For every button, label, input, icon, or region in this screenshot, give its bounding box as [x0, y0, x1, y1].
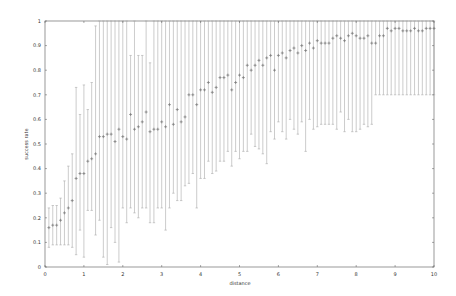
data-point	[102, 135, 105, 138]
data-point	[160, 120, 163, 123]
data-point	[110, 133, 113, 136]
x-tick-label: 10	[431, 271, 437, 277]
data-point	[265, 56, 268, 59]
data-point	[397, 27, 400, 30]
data-point	[339, 37, 342, 40]
x-tick-label: 3	[160, 271, 163, 277]
data-point	[413, 27, 416, 30]
data-point	[129, 113, 132, 116]
data-point	[250, 69, 253, 72]
data-point	[359, 37, 362, 40]
data-point	[405, 29, 408, 32]
data-point	[219, 76, 222, 79]
chart: 012345678910 00.10.20.30.40.50.60.70.80.…	[0, 0, 456, 296]
y-axis: 00.10.20.30.40.50.60.70.80.91	[33, 18, 434, 270]
y-tick-label: 1	[38, 18, 41, 24]
x-tick-label: 0	[43, 271, 46, 277]
data-point	[281, 51, 284, 54]
data-point	[277, 54, 280, 57]
y-tick-label: 0.9	[33, 42, 41, 48]
data-point	[351, 32, 354, 35]
x-tick-label: 9	[394, 271, 397, 277]
x-tick-label: 1	[82, 271, 85, 277]
data-point	[246, 64, 249, 67]
data-point	[90, 157, 93, 160]
x-tick-label: 5	[238, 271, 241, 277]
data-point	[117, 128, 120, 131]
data-point	[176, 108, 179, 111]
data-point	[82, 172, 85, 175]
data-point	[366, 34, 369, 37]
data-point	[289, 49, 292, 52]
data-point	[75, 177, 78, 180]
data-point	[133, 128, 136, 131]
y-tick-label: 0.1	[33, 239, 41, 245]
data-point	[433, 27, 436, 30]
data-point	[207, 81, 210, 84]
data-point	[273, 69, 276, 72]
x-tick-label: 4	[199, 271, 202, 277]
data-point	[226, 74, 229, 77]
data-point	[94, 152, 97, 155]
y-tick-label: 0	[38, 264, 41, 270]
y-tick-label: 0.6	[33, 116, 41, 122]
data-points	[47, 27, 435, 229]
data-point	[51, 224, 54, 227]
y-tick-label: 0.5	[33, 141, 41, 147]
data-point	[257, 59, 260, 62]
data-point	[98, 135, 101, 138]
data-point	[421, 29, 424, 32]
data-point	[71, 199, 74, 202]
y-tick-label: 0.4	[33, 165, 41, 171]
data-point	[86, 160, 89, 163]
data-point	[47, 226, 50, 229]
data-point	[378, 34, 381, 37]
data-point	[203, 88, 206, 91]
data-point	[362, 37, 365, 40]
x-tick-label: 8	[355, 271, 358, 277]
data-point	[168, 103, 171, 106]
data-point	[114, 140, 117, 143]
data-point	[238, 74, 241, 77]
data-point	[300, 44, 303, 47]
data-point	[187, 93, 190, 96]
data-point	[285, 56, 288, 59]
data-point	[331, 37, 334, 40]
data-point	[425, 27, 428, 30]
data-point	[141, 120, 144, 123]
data-point	[242, 76, 245, 79]
data-point	[67, 206, 70, 209]
data-point	[172, 123, 175, 126]
data-point	[324, 42, 327, 45]
y-axis-label: success rate	[23, 128, 29, 159]
data-point	[269, 54, 272, 57]
data-point	[327, 42, 330, 45]
data-point	[137, 125, 140, 128]
data-point	[429, 27, 432, 30]
data-point	[320, 42, 323, 45]
data-point	[304, 49, 307, 52]
data-point	[370, 42, 373, 45]
data-point	[184, 115, 187, 118]
data-point	[215, 86, 218, 89]
data-point	[211, 91, 214, 94]
x-axis: 012345678910	[43, 21, 437, 277]
y-tick-label: 0.7	[33, 92, 41, 98]
data-point	[125, 138, 128, 141]
x-tick-label: 2	[121, 271, 124, 277]
data-point	[296, 51, 299, 54]
y-tick-label: 0.3	[33, 190, 41, 196]
data-point	[401, 29, 404, 32]
x-axis-label: distance	[229, 280, 250, 286]
data-point	[156, 128, 159, 131]
data-point	[79, 172, 82, 175]
data-point	[145, 111, 148, 114]
error-bars	[48, 21, 436, 265]
data-point	[316, 39, 319, 42]
x-tick-label: 7	[316, 271, 319, 277]
data-point	[343, 39, 346, 42]
data-point	[234, 81, 237, 84]
y-tick-label: 0.2	[33, 215, 41, 221]
data-point	[254, 64, 257, 67]
data-point	[222, 76, 225, 79]
